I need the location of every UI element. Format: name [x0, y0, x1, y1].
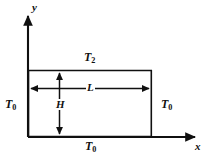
- height-dimension-label: H: [55, 99, 66, 110]
- boundary-label-top-subscript: 2: [91, 56, 95, 65]
- boundary-label-right-subscript: 0: [168, 103, 172, 112]
- x-axis-label: x: [194, 141, 202, 152]
- rectangular-domain-diagram: [0, 0, 212, 159]
- y-axis-label: y: [31, 2, 38, 13]
- figure-container: T2 T0 T0 T0 L H y x: [0, 0, 212, 159]
- length-dimension-label: L: [86, 82, 95, 93]
- boundary-label-top: T2: [83, 51, 96, 63]
- boundary-label-right: T0: [160, 98, 173, 110]
- boundary-label-bottom: T0: [84, 140, 97, 152]
- boundary-label-left-subscript: 0: [12, 103, 16, 112]
- boundary-label-left: T0: [4, 98, 17, 110]
- boundary-label-bottom-subscript: 0: [92, 145, 96, 154]
